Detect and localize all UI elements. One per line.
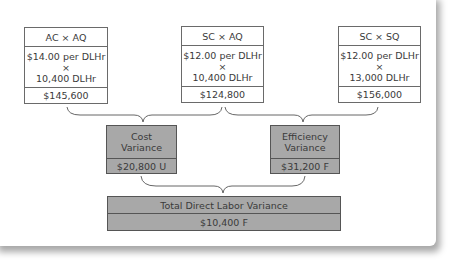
efficiency-variance-box: Efficiency Variance $31,200 F — [270, 125, 340, 174]
label-line1: Cost — [107, 131, 176, 142]
brace-total — [141, 176, 305, 193]
brace-efficiency — [225, 107, 378, 122]
efficiency-variance-label: Efficiency Variance — [271, 126, 339, 159]
total-variance-label: Total Direct Labor Variance — [108, 197, 340, 214]
total-variance-box: Total Direct Labor Variance $10,400 F — [107, 196, 341, 231]
cost-variance-value: $20,800 U — [107, 159, 176, 173]
total-variance-value: $10,400 F — [108, 214, 340, 230]
cost-variance-box: Cost Variance $20,800 U — [106, 125, 177, 174]
label-line2: Variance — [107, 142, 176, 153]
efficiency-variance-value: $31,200 F — [271, 159, 339, 173]
brace-cost — [67, 107, 222, 122]
label-line1: Efficiency — [271, 131, 339, 142]
cost-variance-label: Cost Variance — [107, 126, 176, 159]
label-line2: Variance — [271, 142, 339, 153]
